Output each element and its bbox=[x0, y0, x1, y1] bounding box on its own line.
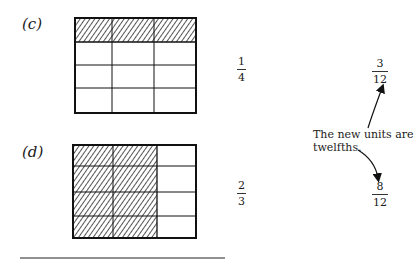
arrow-up-icon bbox=[368, 88, 382, 128]
numerator: 1 bbox=[237, 56, 246, 67]
denominator: 12 bbox=[372, 74, 388, 85]
arrow-down-icon bbox=[358, 150, 378, 178]
annotation-line-2: twelfths. bbox=[313, 141, 414, 154]
denominator: 3 bbox=[237, 196, 246, 207]
denominator: 4 bbox=[237, 72, 246, 83]
annotation-text: The new units are twelfths. bbox=[313, 128, 414, 154]
denominator: 12 bbox=[372, 197, 388, 208]
numerator: 3 bbox=[372, 58, 388, 69]
figure-d-label: (d) bbox=[22, 143, 43, 161]
fraction-one-quarter: 1 4 bbox=[237, 56, 246, 83]
fraction-eight-twelfths: 8 12 bbox=[372, 181, 388, 208]
numerator: 2 bbox=[237, 180, 246, 191]
grid-c bbox=[75, 18, 196, 113]
numerator: 8 bbox=[372, 181, 388, 192]
fraction-three-twelfths: 3 12 bbox=[372, 58, 388, 85]
annotation-line-1: The new units are bbox=[313, 128, 414, 141]
figure-c-label: (c) bbox=[22, 15, 42, 33]
fraction-two-thirds: 2 3 bbox=[237, 180, 246, 207]
grid-d bbox=[73, 145, 196, 238]
